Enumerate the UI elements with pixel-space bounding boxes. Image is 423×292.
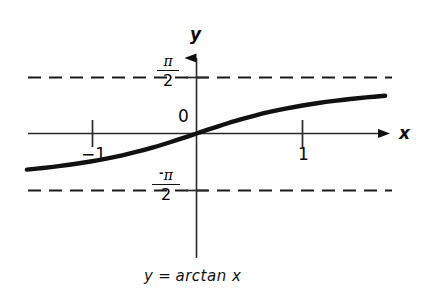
y-label-neg-pi-over-two: -π 2 [152,167,180,204]
pi-glyph: π [164,167,173,183]
two-denominator: 2 [152,185,180,204]
pi-numerator: π [157,54,179,70]
caption-equals: = [153,267,175,285]
y-label-pi-over-two: π 2 [157,54,179,90]
arctan-figure: y x 0 −1 1 π 2 -π 2 y = arctan x [0,0,423,292]
neg-pi-numerator: -π [152,167,180,184]
x-tick-label-minus-one: −1 [81,146,106,163]
figure-caption: y = arctan x [144,267,241,285]
origin-label: 0 [178,108,189,125]
caption-lhs: y [144,267,153,285]
two-denominator: 2 [157,71,179,90]
x-axis-label: x [399,125,410,142]
caption-rhs: arctan x [176,267,242,285]
y-axis-label: y [190,26,201,43]
x-tick-label-plus-one: 1 [298,146,309,163]
plot-canvas [0,0,423,292]
